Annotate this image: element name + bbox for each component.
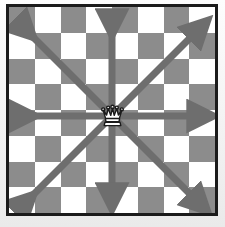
queen-piece [99, 103, 126, 130]
chessboard [6, 4, 218, 216]
figure-canvas [0, 0, 225, 227]
